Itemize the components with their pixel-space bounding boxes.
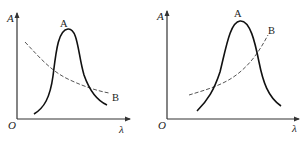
left-curve-a-label: A: [60, 18, 68, 29]
right-curve-a-label: A: [234, 8, 242, 19]
right-curve-b-label: B: [268, 25, 275, 36]
left-x-axis-label: λ: [118, 123, 124, 135]
right-panel: A O λ A B: [156, 8, 299, 134]
right-y-axis-label: A: [156, 10, 164, 22]
right-origin-label: O: [158, 119, 166, 131]
right-curve-b: [189, 35, 268, 95]
left-curve-b-label: B: [112, 92, 119, 103]
diagram-canvas: A O λ A B A O λ A B: [0, 0, 304, 143]
left-origin-label: O: [8, 119, 16, 131]
right-x-axis-label: λ: [291, 122, 297, 134]
left-y-axis-label: A: [6, 12, 14, 24]
left-curve-b: [25, 42, 109, 93]
left-curve-a: [34, 29, 107, 114]
left-panel: A O λ A B: [6, 12, 130, 135]
